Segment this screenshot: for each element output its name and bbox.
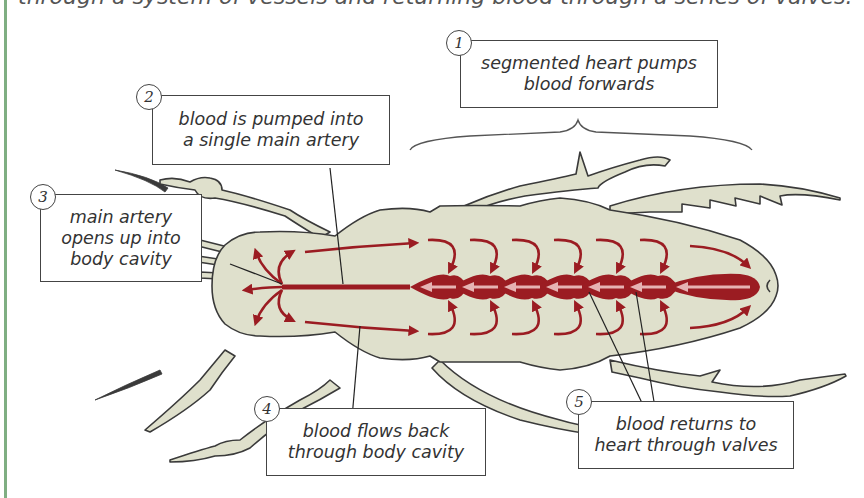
- label-box-5: blood returns to heart through valves: [578, 401, 794, 469]
- label-1-line1: segmented heart pumps: [481, 53, 697, 74]
- label-3-line2: opens up into: [61, 228, 181, 249]
- label-5-line1: blood returns to: [594, 414, 777, 435]
- label-number-5: 5: [566, 389, 592, 415]
- label-3-line1: main artery: [61, 207, 181, 228]
- label-4-line1: blood flows back: [288, 421, 464, 442]
- label-box-3: main artery opens up into body cavity: [40, 194, 202, 282]
- label-box-1: segmented heart pumps blood forwards: [460, 40, 718, 108]
- label-2-line2: a single main artery: [179, 130, 364, 151]
- label-3-line3: body cavity: [61, 249, 181, 270]
- label-number-4: 4: [254, 396, 280, 422]
- label-number-1: 1: [446, 30, 472, 56]
- label-number-3: 3: [30, 184, 56, 210]
- label-box-4: blood flows back through body cavity: [266, 408, 486, 476]
- label-5-line2: heart through valves: [594, 435, 777, 456]
- label-2-line1: blood is pumped into: [179, 109, 364, 130]
- label-1-line2: blood forwards: [481, 74, 697, 95]
- label-number-2: 2: [136, 84, 162, 110]
- label-4-line2: through body cavity: [288, 442, 464, 463]
- brace: [410, 120, 752, 150]
- label-box-2: blood is pumped into a single main arter…: [152, 95, 390, 165]
